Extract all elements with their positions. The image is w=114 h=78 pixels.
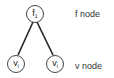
f-node: f1 xyxy=(26,5,44,23)
v-node-left: vi xyxy=(7,55,25,73)
v-node-right-label: vi xyxy=(52,59,58,69)
v-node-left-label: vi xyxy=(13,59,19,69)
v-node-legend: v node xyxy=(75,61,102,71)
f-node-label: f1 xyxy=(32,9,37,19)
v-node-right: vi xyxy=(46,55,64,73)
edge-f-to-left-v xyxy=(18,22,33,55)
f-node-legend: f node xyxy=(75,9,100,19)
edge-f-to-right-v xyxy=(37,22,53,55)
